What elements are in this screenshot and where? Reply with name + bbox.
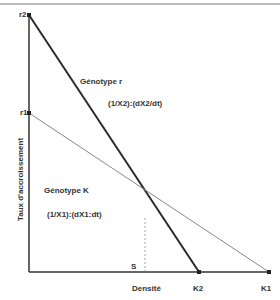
k2-marker: [197, 270, 201, 274]
r2-marker: [27, 13, 31, 17]
k1-label: K1: [261, 284, 271, 293]
k1-marker: [267, 270, 271, 274]
genotype-k-equation: (1/X1):(dX1:dt): [47, 210, 102, 219]
x-axis-label: Densité: [132, 284, 161, 293]
k2-label: K2: [193, 284, 203, 293]
y-axis-label: Taux d'accroissement: [16, 130, 25, 230]
s-label: S: [131, 262, 136, 271]
r2-label: r2: [19, 10, 27, 19]
r1-label: r1: [20, 108, 28, 117]
genotype-r-equation: (1/X2):(dX2/dt): [108, 99, 162, 108]
growth-rate-diagram: r2 r1 Génotype r (1/X2):(dX2/dt) Génotyp…: [0, 0, 280, 300]
genotype-k-label: Génotype K: [44, 186, 89, 195]
genotype-r-line: [29, 15, 199, 272]
genotype-r-label: Génotype r: [80, 77, 122, 86]
diagram-canvas: [0, 0, 280, 300]
